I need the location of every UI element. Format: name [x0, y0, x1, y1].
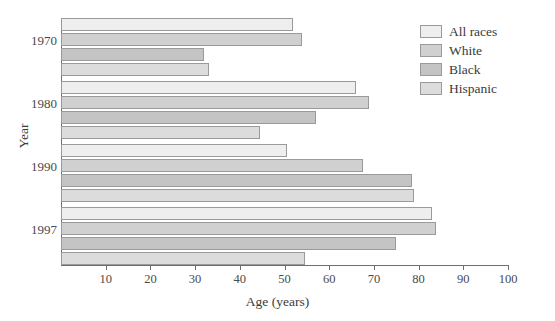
legend-label: White [449, 43, 482, 59]
x-tick-label: 10 [99, 272, 112, 287]
x-tick-label: 70 [368, 272, 381, 287]
bar-1970-white [61, 33, 302, 46]
legend-swatch-icon [420, 63, 442, 76]
legend-label: Black [449, 62, 481, 78]
bar-1997-white [61, 222, 436, 235]
x-tick-label: 80 [412, 272, 425, 287]
legend-swatch-icon [420, 25, 442, 38]
x-tick-label: 100 [499, 272, 518, 287]
x-tick-mark [285, 265, 286, 270]
bar-1997-black [61, 237, 396, 250]
bar-1980-hispanic [61, 126, 260, 139]
legend: All racesWhiteBlackHispanic [420, 22, 497, 98]
legend-item-white: White [420, 41, 497, 60]
x-tick-label: 60 [323, 272, 336, 287]
legend-swatch-icon [420, 82, 442, 95]
bar-1970-hispanic [61, 63, 209, 76]
bar-1980-all-races [61, 81, 356, 94]
legend-item-hispanic: Hispanic [420, 79, 497, 98]
y-axis-title: Year [16, 106, 32, 166]
x-tick-label: 20 [144, 272, 157, 287]
x-tick-mark [240, 265, 241, 270]
bar-1990-white [61, 159, 363, 172]
bar-1970-all-races [61, 18, 293, 31]
y-tick-label-1997: 1997 [0, 222, 57, 238]
bar-1990-hispanic [61, 189, 414, 202]
legend-label: Hispanic [449, 81, 497, 97]
legend-item-all-races: All races [420, 22, 497, 41]
bar-1990-black [61, 174, 412, 187]
x-tick-mark [508, 265, 509, 270]
x-tick-label: 50 [278, 272, 291, 287]
x-tick-mark [374, 265, 375, 270]
x-tick-mark [195, 265, 196, 270]
legend-swatch-icon [420, 44, 442, 57]
x-tick-mark [106, 265, 107, 270]
x-tick-label: 30 [189, 272, 202, 287]
legend-label: All races [449, 24, 497, 40]
bar-1980-white [61, 96, 369, 109]
bar-1997-hispanic [61, 252, 305, 265]
legend-item-black: Black [420, 60, 497, 79]
bar-chart: 102030405060708090100 1970198019901997 A… [0, 0, 555, 321]
y-tick-label-1970: 1970 [0, 33, 57, 49]
x-tick-label: 40 [234, 272, 247, 287]
x-tick-mark [463, 265, 464, 270]
x-tick-mark [329, 265, 330, 270]
x-tick-mark [419, 265, 420, 270]
bar-1997-all-races [61, 207, 432, 220]
bar-1980-black [61, 111, 316, 124]
x-axis-title: Age (years) [0, 294, 555, 310]
bar-1970-black [61, 48, 204, 61]
x-tick-label: 90 [457, 272, 470, 287]
x-tick-mark [150, 265, 151, 270]
bar-1990-all-races [61, 144, 287, 157]
